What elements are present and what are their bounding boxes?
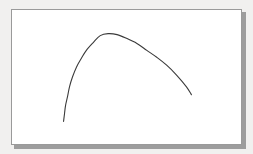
curve-plot bbox=[12, 10, 241, 144]
curve-line bbox=[64, 34, 192, 122]
figure-frame bbox=[11, 9, 242, 145]
figure-container bbox=[0, 0, 253, 154]
